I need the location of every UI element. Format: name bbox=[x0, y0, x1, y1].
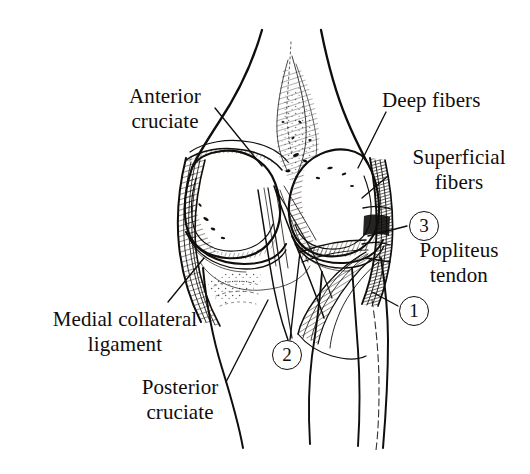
label-medial-collateral-ligament: Medial collateral ligament bbox=[20, 307, 230, 357]
marker-3: 3 bbox=[409, 211, 439, 241]
marker-1: 1 bbox=[399, 296, 429, 326]
label-posterior-cruciate: Posterior cruciate bbox=[85, 375, 275, 425]
leader-marker-2 bbox=[290, 252, 300, 340]
knee-anatomy-figure: Anterior cruciate Deep fibers Superficia… bbox=[0, 0, 530, 474]
label-deep-fibers: Deep fibers bbox=[382, 88, 528, 113]
marker-2: 2 bbox=[272, 340, 302, 370]
label-anterior-cruciate: Anterior cruciate bbox=[95, 84, 235, 134]
leader-posterior-cruciate bbox=[226, 300, 268, 382]
label-superficial-fibers: Superficial fibers bbox=[390, 145, 528, 195]
label-popliteus-tendon: Popliteus tendon bbox=[392, 238, 526, 288]
